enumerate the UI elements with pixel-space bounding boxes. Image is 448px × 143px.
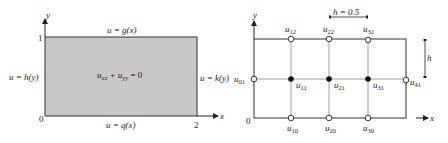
boundary-node-u10 bbox=[288, 115, 294, 121]
y-axis-label: y bbox=[45, 10, 50, 20]
dimension-tick bbox=[424, 39, 427, 41]
label-u10: u10 bbox=[287, 123, 298, 134]
boundary-node-u41 bbox=[403, 77, 409, 83]
interior-node-u21 bbox=[326, 76, 332, 82]
label-u31: u31 bbox=[373, 80, 384, 91]
boundary-node-u12 bbox=[288, 36, 294, 42]
dimension-tick bbox=[329, 16, 331, 19]
boundary-node-u30 bbox=[365, 115, 371, 121]
tick-origin: 0 bbox=[39, 114, 44, 124]
interior-node-u11 bbox=[288, 76, 294, 82]
bc-right: u = k(y) bbox=[200, 73, 229, 83]
right-diagram: y x 0 h = 0.5 h u12 u22 u32 u01 u41 u10 … bbox=[234, 7, 434, 134]
label-u21: u21 bbox=[334, 80, 345, 91]
tick-x-max: 2 bbox=[194, 120, 199, 130]
y-axis-label: y bbox=[252, 10, 257, 20]
dimension-tick bbox=[366, 16, 368, 19]
x-axis-label: x bbox=[219, 111, 224, 121]
label-u12: u12 bbox=[285, 24, 296, 35]
label-u41: u41 bbox=[410, 77, 421, 88]
interior-node-u31 bbox=[365, 76, 371, 82]
origin-label: 0 bbox=[246, 116, 251, 126]
boundary-node-u01 bbox=[251, 76, 257, 82]
dimension-tick bbox=[424, 76, 427, 78]
label-u20: u20 bbox=[325, 123, 336, 134]
bc-bottom: u = q(x) bbox=[106, 120, 136, 130]
label-u11: u11 bbox=[296, 80, 307, 91]
figure: y x 1 0 2 u = g(x) u = q(x) u = h(y) u =… bbox=[0, 0, 448, 143]
label-u22: u22 bbox=[323, 24, 334, 35]
label-u30: u30 bbox=[363, 123, 374, 134]
label-u01: u01 bbox=[234, 74, 245, 85]
bc-left: u = h(y) bbox=[9, 72, 39, 82]
boundary-node-u32 bbox=[365, 37, 371, 43]
boundary-node-u22 bbox=[326, 36, 332, 42]
step-label: h = 0.5 bbox=[333, 7, 360, 17]
left-diagram: y x 1 0 2 u = g(x) u = q(x) u = h(y) u =… bbox=[9, 10, 229, 130]
vertical-step-label: h bbox=[427, 53, 432, 63]
tick-y-max: 1 bbox=[38, 33, 43, 43]
label-u32: u32 bbox=[363, 24, 374, 35]
boundary-node-u20 bbox=[326, 115, 332, 121]
bc-top: u = g(x) bbox=[107, 25, 137, 35]
x-axis-label: x bbox=[429, 113, 434, 123]
